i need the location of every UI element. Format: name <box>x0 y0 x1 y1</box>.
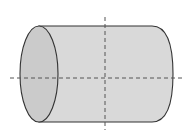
cylinder-diagram <box>0 0 191 137</box>
cylinder-end-face <box>20 26 58 122</box>
cylinder-svg <box>0 0 191 137</box>
cylinder-body <box>39 26 173 122</box>
